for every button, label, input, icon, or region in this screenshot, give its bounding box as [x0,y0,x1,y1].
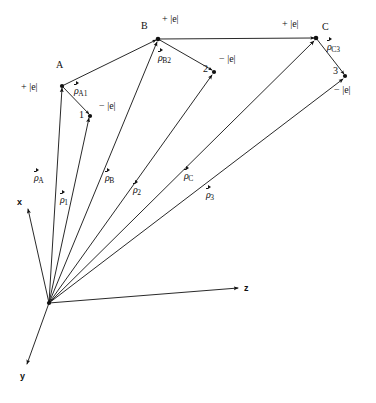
vector-label-rho-3: ρ3 [206,189,214,201]
axis-y-line [27,303,49,364]
vertex-label-3: 3 [333,66,338,76]
vertex-dot-3 [343,74,347,78]
vector-rho-3 [49,79,343,303]
axis-x-line [28,209,49,303]
vertex-dot-A [60,84,64,88]
axis-z-line [49,288,238,303]
connector-B-C [158,38,314,39]
charge-label-1: − |e| [99,101,116,111]
vector-label-rho-1: ρ1 [60,194,68,206]
vector-label-rho-A1: ρA1 [74,85,87,97]
vertex-label-1: 1 [79,110,84,120]
axis-label-z: z [244,284,249,293]
charge-label-B: + |e| [162,14,179,24]
vertex-label-B: B [141,21,148,31]
vector-diagram-figure: x y z A 1 B 2 C 3 + |e| − |e| + |e| − |e… [0,0,376,403]
axis-label-x: x [17,198,22,207]
vector-label-rho-2: ρ2 [133,184,141,196]
charge-label-2: − |e| [219,54,236,64]
origin-dot [47,301,51,305]
charge-label-3: − |e| [334,85,351,95]
charge-label-A: + |e| [21,82,38,92]
vector-rho-C [49,41,314,303]
vertex-dot-B [156,37,161,42]
vector-label-rho-B: ρB [105,172,114,184]
vector-rho-B [49,42,157,303]
vertex-dot-1 [88,114,92,118]
vertex-label-2: 2 [203,64,208,74]
vertex-dot-C [314,36,319,41]
vertex-label-C: C [322,22,329,32]
axis-label-y: y [20,372,25,381]
vector-label-rho-B2: ρB2 [158,52,171,64]
vector-label-rho-C: ρC [184,170,193,182]
charge-label-C: + |e| [282,19,299,29]
vertex-label-A: A [56,60,63,70]
vector-label-rho-A: ρA [34,172,44,184]
vertex-dot-2 [212,70,216,74]
vector-label-rho-C3: ρC3 [327,41,340,53]
